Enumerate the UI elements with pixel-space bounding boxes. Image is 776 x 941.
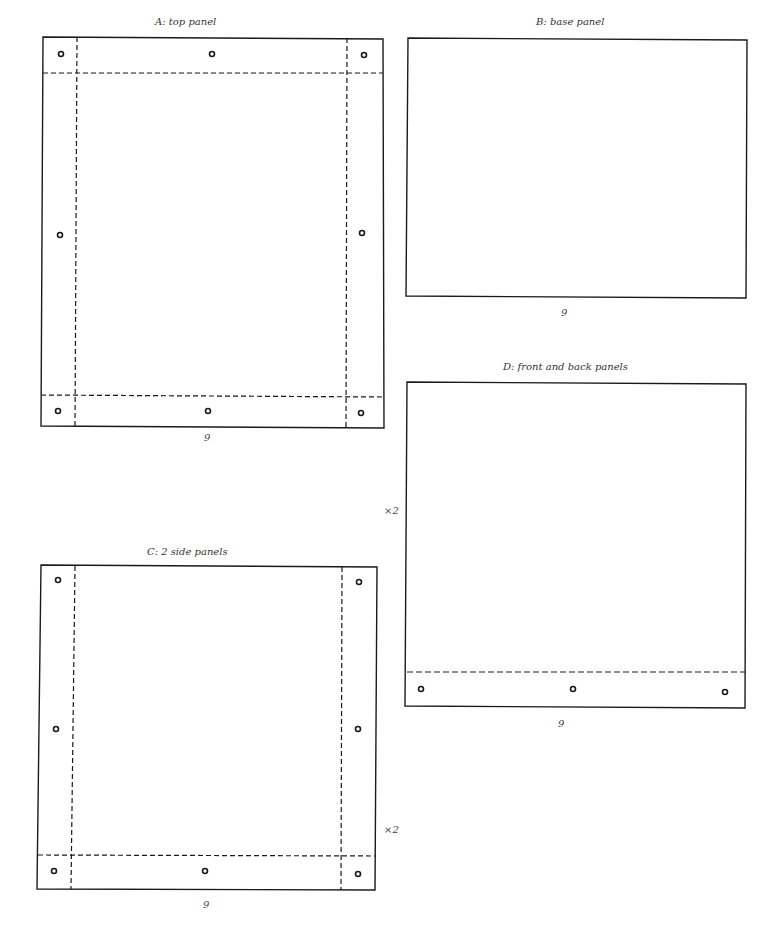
panel-c-width-label: 9 [203,899,209,910]
panel-a-top [41,37,384,428]
hole-icon [359,411,364,416]
fold-line [38,855,375,856]
panel-b-base [406,38,747,298]
hole-icon [206,409,211,414]
hole-icon [59,52,64,57]
hole-icon [210,52,215,57]
panel-d-front-back [405,382,746,708]
fold-line [341,567,342,890]
panel-c-title: C: 2 side panels [147,546,228,557]
panel-d-width-label: 9 [558,718,564,729]
hole-icon [54,727,59,732]
panel-d-quantity: ×2 [384,505,399,516]
panel-d-title: D: front and back panels [503,361,628,372]
fold-line [41,395,383,397]
hole-icon [356,872,361,877]
hole-icon [571,687,576,692]
hole-icon [723,690,728,695]
hole-icon [56,578,61,583]
fold-line [71,566,75,889]
hole-icon [362,53,367,58]
fold-line [75,37,77,427]
panel-b-title: B: base panel [536,16,604,27]
hole-icon [360,231,365,236]
hole-icon [58,233,63,238]
hole-icon [419,687,424,692]
hole-icon [357,580,362,585]
hole-icon [52,869,57,874]
panel-c-quantity: ×2 [384,824,399,835]
panel-a-width-label: 9 [204,432,210,443]
panel-a-title: A: top panel [155,16,216,27]
panel-b-width-label: 9 [561,307,567,318]
hole-icon [356,727,361,732]
fold-line [346,38,347,428]
hole-icon [56,409,61,414]
panel-diagram [0,0,776,941]
hole-icon [203,869,208,874]
panel-c-side [37,565,377,890]
